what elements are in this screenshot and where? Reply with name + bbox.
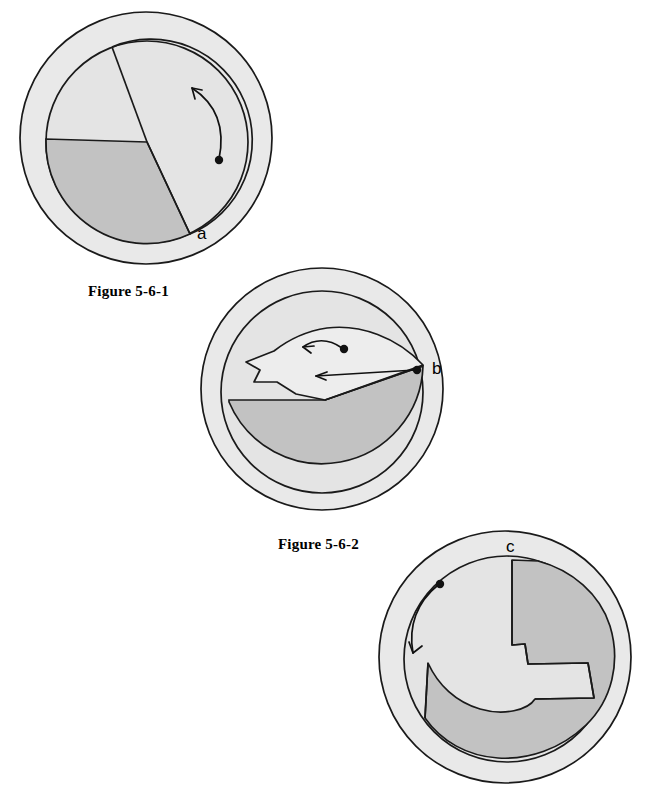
figure-3-diagram: c	[372, 522, 638, 796]
fig3-arrow-origin-dot	[436, 580, 444, 588]
fig2-label-b: b	[432, 359, 441, 378]
fig3-label-c: c	[506, 537, 515, 556]
figure-1-diagram: a	[6, 8, 286, 268]
fig2-arrow-upper-dot	[340, 345, 348, 353]
figure-2-caption: Figure 5-6-2	[278, 536, 359, 553]
figure-2-diagram: b	[192, 266, 452, 516]
figure-plate: a Figure 5-6-1 b Figure 5-6-2	[0, 0, 658, 796]
fig1-label-a: a	[197, 224, 207, 243]
figure-1-caption: Figure 5-6-1	[88, 283, 169, 300]
fig2-arrow-lower-dot	[413, 366, 421, 374]
fig1-arrow-origin-dot	[215, 156, 223, 164]
